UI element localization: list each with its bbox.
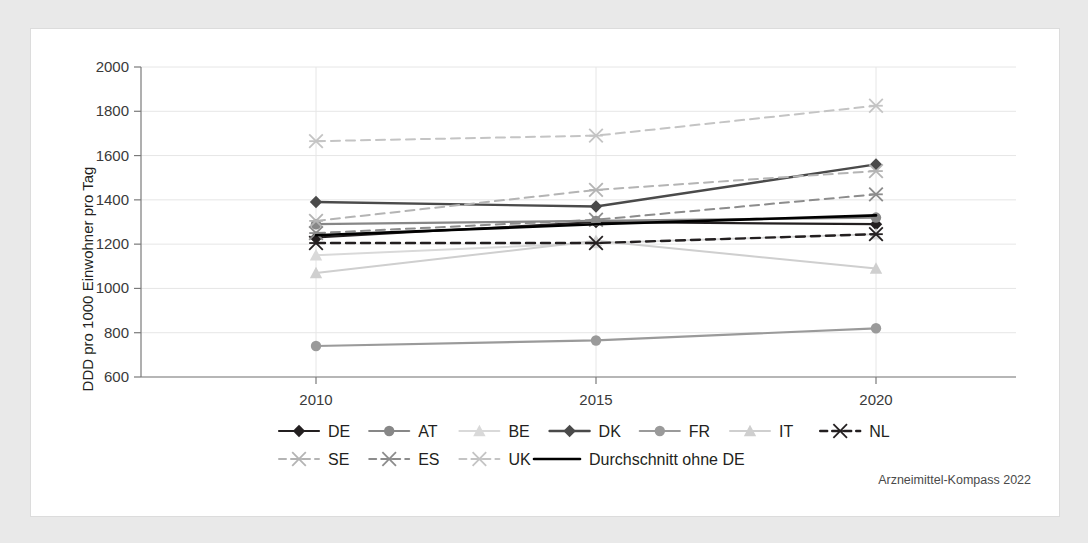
legend-label: SE bbox=[328, 451, 349, 468]
y-tick-labels: 200018001600140012001000800600 bbox=[96, 58, 129, 385]
chart-page: 200018001600140012001000800600 201020152… bbox=[0, 0, 1088, 543]
legend-marker bbox=[292, 452, 306, 466]
x-tick-label: 2010 bbox=[299, 391, 332, 408]
line-chart: 200018001600140012001000800600 201020152… bbox=[31, 29, 1059, 516]
x-tick-label: 2020 bbox=[859, 391, 892, 408]
legend-item-de[interactable]: DE bbox=[279, 423, 350, 440]
y-axis-title: DDD pro 1000 Einwohner pro Tag bbox=[79, 167, 96, 392]
x-tick-labels: 201020152020 bbox=[299, 391, 892, 408]
data-point bbox=[871, 212, 881, 222]
data-point bbox=[590, 200, 602, 212]
legend-label: IT bbox=[779, 423, 793, 440]
legend-marker bbox=[293, 425, 305, 437]
y-tick-label: 800 bbox=[104, 324, 129, 341]
legend-label: DK bbox=[599, 423, 622, 440]
y-tick-label: 1400 bbox=[96, 191, 129, 208]
legend-label: BE bbox=[508, 423, 529, 440]
legend-marker bbox=[655, 426, 665, 436]
legend-item-fr[interactable]: FR bbox=[640, 423, 710, 440]
legend-item-it[interactable]: IT bbox=[730, 423, 793, 440]
legend-marker bbox=[563, 425, 575, 437]
y-tick-label: 1200 bbox=[96, 235, 129, 252]
legend-label: AT bbox=[418, 423, 437, 440]
y-tick-label: 2000 bbox=[96, 58, 129, 75]
chart-legend: DEATBEDKFRITNLSEESUKDurchschnitt ohne DE bbox=[279, 423, 890, 468]
legend-item-uk[interactable]: UK bbox=[459, 451, 531, 468]
data-point bbox=[591, 335, 601, 345]
legend-marker bbox=[384, 426, 394, 436]
legend-marker bbox=[833, 424, 847, 438]
data-point bbox=[871, 323, 881, 333]
data-point bbox=[310, 196, 322, 208]
legend-item-dk[interactable]: DK bbox=[550, 423, 622, 440]
data-point bbox=[870, 158, 882, 170]
y-tick-label: 1600 bbox=[96, 147, 129, 164]
legend-item-durchschnitt-ohne-de[interactable]: Durchschnitt ohne DE bbox=[534, 451, 745, 468]
legend-item-nl[interactable]: NL bbox=[820, 423, 890, 440]
legend-label: DE bbox=[328, 423, 350, 440]
y-tick-label: 600 bbox=[104, 368, 129, 385]
plot-area: 200018001600140012001000800600 201020152… bbox=[31, 29, 1059, 516]
legend-label: Durchschnitt ohne DE bbox=[589, 451, 745, 468]
legend-label: NL bbox=[869, 423, 890, 440]
y-tick-label: 1000 bbox=[96, 279, 129, 296]
data-point bbox=[311, 341, 321, 351]
legend-label: FR bbox=[689, 423, 710, 440]
legend-item-es[interactable]: ES bbox=[369, 451, 439, 468]
legend-item-at[interactable]: AT bbox=[369, 423, 437, 440]
y-tick-label: 1800 bbox=[96, 102, 129, 119]
legend-marker bbox=[473, 452, 487, 466]
legend-item-se[interactable]: SE bbox=[279, 451, 349, 468]
legend-label: ES bbox=[418, 451, 439, 468]
legend-marker bbox=[382, 452, 396, 466]
legend-label: UK bbox=[508, 451, 531, 468]
source-note: Arzneimittel-Kompass 2022 bbox=[878, 473, 1031, 487]
x-tick-label: 2015 bbox=[579, 391, 612, 408]
legend-item-be[interactable]: BE bbox=[459, 423, 529, 440]
chart-panel: 200018001600140012001000800600 201020152… bbox=[30, 28, 1060, 517]
